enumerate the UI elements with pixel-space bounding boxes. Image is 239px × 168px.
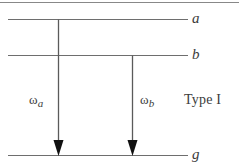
diagram-type-label: Type I — [184, 93, 221, 107]
level-label-a: a — [192, 11, 200, 26]
transition-arrow-omega-b — [128, 56, 138, 157]
level-label-b: b — [192, 47, 200, 62]
energy-level-diagram: a b g ωa ωb Type I — [0, 0, 239, 168]
transition-arrow-omega-a — [54, 20, 64, 157]
omega-a-subscript: a — [38, 97, 44, 109]
transition-label-omega-a: ωa — [29, 93, 43, 109]
transition-arrow-omega-a-head — [54, 140, 64, 156]
diagram-canvas — [0, 0, 239, 168]
omega-a-symbol: ω — [29, 92, 38, 107]
omega-b-subscript: b — [149, 97, 155, 109]
level-label-g: g — [192, 147, 200, 162]
transition-label-omega-b: ωb — [140, 93, 154, 109]
omega-b-symbol: ω — [140, 92, 149, 107]
transition-arrow-omega-b-head — [128, 140, 138, 156]
